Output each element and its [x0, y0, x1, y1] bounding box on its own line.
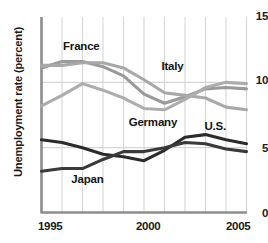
series-label-france: France	[63, 40, 100, 52]
series-label-us: U.S.	[205, 120, 227, 132]
series-label-italy: Italy	[161, 60, 183, 72]
unemployment-rate-line-chart: Unemployment rate (percent) 0 5 10 15 19…	[0, 0, 268, 243]
series-label-germany: Germany	[129, 116, 177, 128]
series-label-japan: Japan	[71, 173, 103, 185]
